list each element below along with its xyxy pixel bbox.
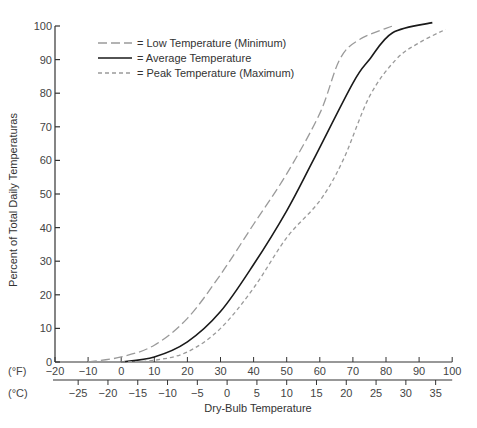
- celsius-tick-label: 30: [400, 387, 412, 399]
- fahrenheit-tick-label: 80: [380, 365, 392, 377]
- celsius-tick-label: 0: [224, 387, 230, 399]
- celsius-tick-label: −25: [69, 387, 88, 399]
- y-tick-label: 80: [40, 87, 52, 99]
- fahrenheit-tick-label: 0: [118, 365, 124, 377]
- fahrenheit-tick-label: 10: [148, 365, 160, 377]
- y-tick-label: 10: [40, 322, 52, 334]
- legend-label: = Low Temperature (Minimum): [137, 37, 286, 49]
- celsius-unit-label: (°C): [8, 387, 28, 399]
- celsius-tick-label: 5: [254, 387, 260, 399]
- celsius-tick-label: 25: [370, 387, 382, 399]
- peak-temperature-curve: [121, 29, 445, 362]
- chart: 0102030405060708090100 −20−1001020304050…: [0, 0, 477, 428]
- fahrenheit-tick-label: −10: [79, 365, 98, 377]
- y-tick-label: 40: [40, 222, 52, 234]
- celsius-tick-label: 35: [430, 387, 442, 399]
- legend-label: = Average Temperature: [137, 52, 251, 64]
- celsius-tick-label: −10: [158, 387, 177, 399]
- legend-label: = Peak Temperature (Maximum): [137, 67, 294, 79]
- fahrenheit-unit-label: (°F): [8, 365, 26, 377]
- fahrenheit-tick-label: 70: [347, 365, 359, 377]
- x-axis-celsius: −25−20−15−10−505101520253035(°C): [8, 380, 452, 399]
- y-tick-label: 100: [34, 20, 52, 32]
- y-axis: 0102030405060708090100: [34, 20, 60, 368]
- y-tick-label: 70: [40, 121, 52, 133]
- celsius-tick-label: 10: [281, 387, 293, 399]
- celsius-tick-label: 15: [310, 387, 322, 399]
- fahrenheit-tick-label: 100: [443, 365, 461, 377]
- fahrenheit-tick-label: 40: [247, 365, 259, 377]
- fahrenheit-tick-label: 90: [413, 365, 425, 377]
- fahrenheit-tick-label: 30: [214, 365, 226, 377]
- celsius-tick-label: −15: [128, 387, 147, 399]
- legend: = Low Temperature (Minimum)= Average Tem…: [98, 37, 294, 79]
- y-tick-label: 20: [40, 289, 52, 301]
- y-tick-label: 30: [40, 255, 52, 267]
- fahrenheit-tick-label: 50: [281, 365, 293, 377]
- celsius-tick-label: −20: [99, 387, 118, 399]
- fahrenheit-tick-label: 20: [181, 365, 193, 377]
- celsius-tick-label: −5: [191, 387, 204, 399]
- y-tick-label: 60: [40, 154, 52, 166]
- y-axis-title: Percent of Total Daily Temperaturas: [7, 113, 19, 287]
- celsius-tick-label: 20: [340, 387, 352, 399]
- fahrenheit-tick-label: 60: [314, 365, 326, 377]
- x-axis-fahrenheit: −20−100102030405060708090100(°F): [8, 357, 461, 377]
- x-axis-title: Dry-Bulb Temperature: [204, 402, 311, 414]
- fahrenheit-tick-label: −20: [46, 365, 65, 377]
- y-tick-label: 50: [40, 188, 52, 200]
- y-tick-label: 90: [40, 54, 52, 66]
